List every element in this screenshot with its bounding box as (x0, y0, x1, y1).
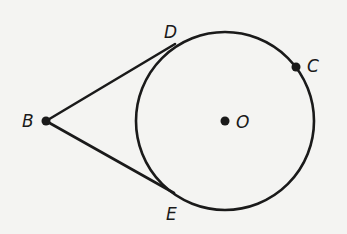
label-e: E (166, 204, 177, 224)
tangent-circle-diagram: B D E C O (0, 0, 347, 234)
tangent-segment-bd (46, 44, 175, 121)
center-o-dot (221, 117, 230, 126)
tangent-segment-be (46, 121, 174, 193)
label-d: D (164, 22, 177, 42)
label-o: O (236, 112, 249, 132)
point-c-dot (292, 63, 301, 72)
label-b: B (22, 111, 34, 131)
point-b-dot (42, 117, 51, 126)
label-c: C (307, 56, 319, 76)
